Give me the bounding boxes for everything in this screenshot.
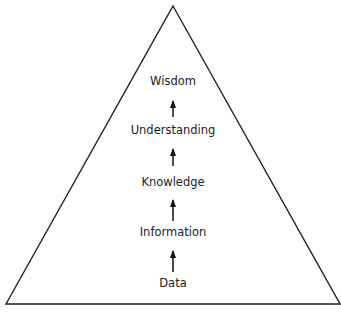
level-label-data: Data	[159, 276, 186, 290]
arrow-up-icon	[170, 148, 176, 166]
level-label-wisdom: Wisdom	[150, 74, 196, 88]
arrow-up-icon	[170, 100, 176, 117]
level-label-understanding: Understanding	[131, 123, 216, 137]
level-label-information: Information	[140, 225, 207, 239]
level-label-knowledge: Knowledge	[141, 175, 204, 189]
arrow-up-icon	[170, 199, 176, 221]
dikw-pyramid-diagram: Wisdom Understanding Knowledge Informati…	[0, 0, 341, 325]
arrow-up-icon	[170, 250, 176, 272]
